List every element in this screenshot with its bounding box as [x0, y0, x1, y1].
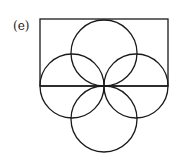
circle-top	[71, 20, 137, 86]
geometry-figure: (e)	[0, 0, 177, 159]
figure-label: (e)	[13, 19, 29, 33]
rectangle	[40, 19, 168, 86]
circle-bottom	[71, 86, 137, 152]
